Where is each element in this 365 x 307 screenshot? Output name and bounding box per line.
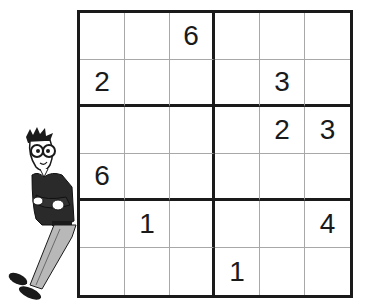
empty-cell-r2c3[interactable] — [170, 60, 215, 107]
empty-cell-r5c1[interactable] — [80, 201, 125, 248]
empty-cell-r6c2[interactable] — [125, 248, 170, 295]
given-cell-r2c5: 3 — [260, 60, 305, 107]
empty-cell-r3c1[interactable] — [80, 107, 125, 154]
empty-cell-r6c3[interactable] — [170, 248, 215, 295]
empty-cell-r4c4[interactable] — [215, 154, 260, 201]
empty-cell-r1c2[interactable] — [125, 13, 170, 60]
empty-cell-r6c5[interactable] — [260, 248, 305, 295]
empty-cell-r1c5[interactable] — [260, 13, 305, 60]
given-cell-r6c4: 1 — [215, 248, 260, 295]
empty-cell-r1c6[interactable] — [305, 13, 350, 60]
given-cell-r4c1: 6 — [80, 154, 125, 201]
given-cell-r3c6: 3 — [305, 107, 350, 154]
empty-cell-r5c4[interactable] — [215, 201, 260, 248]
empty-cell-r5c5[interactable] — [260, 201, 305, 248]
empty-cell-r3c4[interactable] — [215, 107, 260, 154]
given-cell-r5c2: 1 — [125, 201, 170, 248]
empty-cell-r5c3[interactable] — [170, 201, 215, 248]
given-cell-r1c3: 6 — [170, 13, 215, 60]
empty-cell-r3c3[interactable] — [170, 107, 215, 154]
empty-cell-r6c6[interactable] — [305, 248, 350, 295]
empty-cell-r2c6[interactable] — [305, 60, 350, 107]
empty-cell-r4c5[interactable] — [260, 154, 305, 201]
empty-cell-r4c2[interactable] — [125, 154, 170, 201]
empty-cell-r1c4[interactable] — [215, 13, 260, 60]
empty-cell-r3c2[interactable] — [125, 107, 170, 154]
empty-cell-r1c1[interactable] — [80, 13, 125, 60]
empty-cell-r2c2[interactable] — [125, 60, 170, 107]
given-cell-r5c6: 4 — [305, 201, 350, 248]
empty-cell-r6c1[interactable] — [80, 248, 125, 295]
sudoku-grid: 623236141 — [77, 10, 353, 298]
empty-cell-r4c6[interactable] — [305, 154, 350, 201]
given-cell-r2c1: 2 — [80, 60, 125, 107]
empty-cell-r2c4[interactable] — [215, 60, 260, 107]
empty-cell-r4c3[interactable] — [170, 154, 215, 201]
cartoon-character-illustration — [0, 125, 80, 307]
given-cell-r3c5: 2 — [260, 107, 305, 154]
